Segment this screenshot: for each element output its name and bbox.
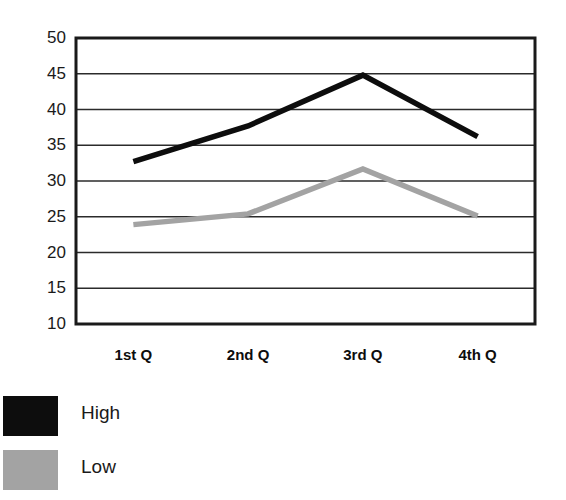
legend-swatch xyxy=(3,396,58,436)
chart-legend: HighLow xyxy=(3,394,303,500)
x-axis-tick-label: 1st Q xyxy=(115,346,153,363)
line-chart: 504540353025201510 1st Q2nd Q3rd Q4th Q … xyxy=(0,0,566,500)
y-axis-tick-label: 45 xyxy=(24,64,66,84)
legend-label: High xyxy=(81,402,120,424)
gridlines xyxy=(76,74,535,289)
legend-item: Low xyxy=(3,448,303,500)
legend-swatch xyxy=(3,450,58,490)
y-axis-tick-label: 15 xyxy=(24,278,66,298)
y-axis-tick-label: 50 xyxy=(24,28,66,48)
y-axis-tick-label: 10 xyxy=(24,314,66,334)
x-axis-tick-label: 2nd Q xyxy=(227,346,270,363)
legend-item: High xyxy=(3,394,303,448)
y-axis-tick-label: 25 xyxy=(24,207,66,227)
series-line-high xyxy=(133,75,477,162)
data-series-layer xyxy=(133,75,477,224)
y-axis-tick-label: 35 xyxy=(24,135,66,155)
y-axis-tick-label: 30 xyxy=(24,171,66,191)
y-axis-tick-label: 20 xyxy=(24,243,66,263)
x-axis-tick-label: 3rd Q xyxy=(343,346,382,363)
legend-label: Low xyxy=(81,456,116,478)
x-axis-tick-label: 4th Q xyxy=(458,346,496,363)
y-axis-tick-label: 40 xyxy=(24,100,66,120)
